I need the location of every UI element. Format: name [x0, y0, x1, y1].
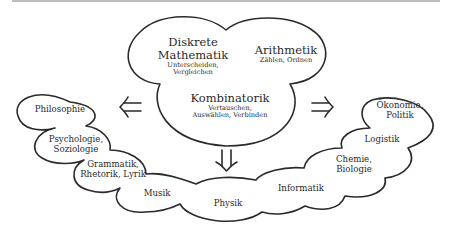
line-2: Rhetorik, Lyrik — [80, 170, 146, 180]
subtitle-2: Auswählen, Verbinden — [180, 112, 280, 119]
title: Kombinatorik — [180, 92, 280, 105]
node-philosophie: Philosophie — [28, 105, 92, 115]
node-arithmetik: Arithmetik Zählen, Ordnen — [248, 44, 324, 64]
title-2: Mathematik — [148, 49, 238, 62]
down-double-arrow-icon — [216, 150, 237, 171]
line-2: Politik — [372, 111, 428, 121]
subtitle-2: Vergleichen — [148, 69, 238, 76]
title: Diskrete — [148, 36, 238, 49]
left-double-arrow-icon — [120, 97, 141, 117]
node-kombinatorik: Kombinatorik Vertauschen, Auswählen, Ver… — [180, 92, 280, 120]
node-informatik: Informatik — [276, 184, 326, 194]
title: Arithmetik — [248, 44, 324, 57]
node-logistik: Logistik — [360, 135, 404, 145]
node-psychologie-soziologie: Psychologie, Soziologie — [48, 135, 104, 154]
node-chemie-biologie: Chemie, Biologie — [330, 155, 378, 174]
line-2: Biologie — [330, 165, 378, 175]
node-musik: Musik — [140, 189, 174, 199]
right-double-arrow-icon — [312, 97, 333, 117]
line-2: Soziologie — [48, 145, 104, 155]
subtitle: Zählen, Ordnen — [248, 57, 324, 64]
node-oekonomie-politik: Ökonomie, Politik — [372, 101, 428, 120]
node-grammatik-rhetorik-lyrik: Grammatik, Rhetorik, Lyrik — [80, 160, 146, 179]
node-physik: Physik — [210, 199, 246, 209]
node-diskrete-mathematik: Diskrete Mathematik Unterscheiden, Vergl… — [148, 36, 238, 77]
